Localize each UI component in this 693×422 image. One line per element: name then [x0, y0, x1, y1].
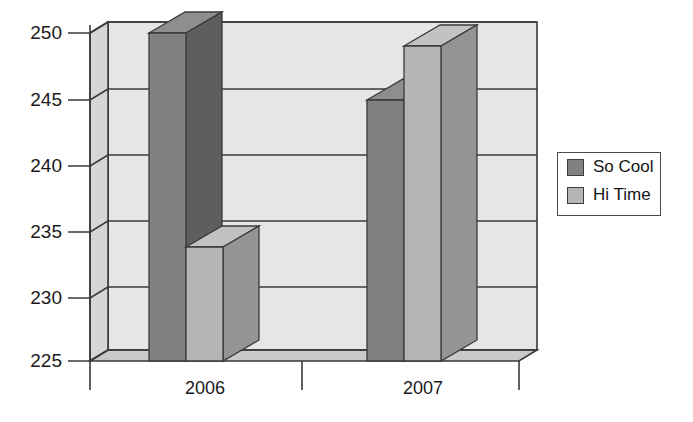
- bar-chart: 250 245 240 235 230 225 2006 2007 So Coo…: [0, 0, 693, 422]
- bar-front-face: [404, 46, 441, 361]
- bar-2007-hi-time: [404, 25, 477, 361]
- legend-item-so-cool[interactable]: So Cool: [558, 153, 660, 181]
- legend-swatch-so-cool: [567, 159, 584, 176]
- y-tick-label-225: 225: [10, 350, 62, 372]
- chart-legend: So Cool Hi Time: [557, 152, 661, 216]
- bar-front-face: [186, 247, 223, 361]
- legend-label-so-cool: So Cool: [593, 157, 653, 177]
- y-tick-label-250: 250: [10, 22, 62, 44]
- bar-side-face: [186, 12, 222, 261]
- legend-label-hi-time: Hi Time: [593, 185, 651, 205]
- y-tick-label-240: 240: [10, 155, 62, 177]
- bar-2006-hi-time: [186, 226, 259, 361]
- bar-front-face: [149, 33, 186, 361]
- legend-swatch-hi-time: [567, 187, 584, 204]
- bar-side-face: [223, 226, 259, 361]
- bar-side-face: [441, 25, 477, 361]
- chart-left-wall: [90, 22, 108, 361]
- bar-front-face: [367, 100, 404, 361]
- x-tick-label-2006: 2006: [160, 378, 250, 399]
- y-tick-label-230: 230: [10, 287, 62, 309]
- x-tick-label-2007: 2007: [378, 378, 468, 399]
- y-tick-label-235: 235: [10, 221, 62, 243]
- legend-item-hi-time[interactable]: Hi Time: [558, 181, 660, 209]
- y-tick-label-245: 245: [10, 89, 62, 111]
